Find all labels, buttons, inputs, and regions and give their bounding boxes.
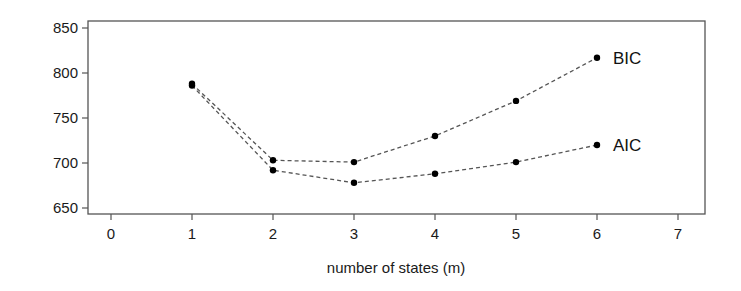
x-tick-label: 1 xyxy=(188,225,196,242)
series-label: BIC xyxy=(613,49,641,68)
data-point xyxy=(513,98,519,104)
x-tick-label: 0 xyxy=(107,225,115,242)
series-bic: BIC xyxy=(189,49,642,166)
series-aic: AIC xyxy=(189,82,642,186)
data-point xyxy=(594,142,600,148)
x-axis-title: number of states (m) xyxy=(327,259,465,276)
series-lines: BICAIC xyxy=(189,49,642,186)
x-tick-label: 2 xyxy=(269,225,277,242)
data-point xyxy=(432,133,438,139)
y-axis: 650700750800850 xyxy=(53,19,88,216)
data-point xyxy=(513,159,519,165)
data-point xyxy=(594,55,600,61)
y-tick-label: 850 xyxy=(53,19,78,36)
data-point xyxy=(189,82,195,88)
x-tick-label: 7 xyxy=(674,225,682,242)
series-line xyxy=(192,86,597,183)
series-label: AIC xyxy=(613,136,641,155)
x-tick-label: 3 xyxy=(350,225,358,242)
x-tick-label: 6 xyxy=(593,225,601,242)
data-point xyxy=(432,171,438,177)
aic-bic-chart: 650700750800850 01234567 BICAIC number o… xyxy=(0,0,741,291)
x-tick-label: 4 xyxy=(431,225,439,242)
data-point xyxy=(270,157,276,163)
data-point xyxy=(351,159,357,165)
x-tick-label: 5 xyxy=(512,225,520,242)
x-axis: 01234567 xyxy=(107,214,682,242)
series-line xyxy=(192,58,597,162)
data-point xyxy=(270,167,276,173)
y-tick-label: 700 xyxy=(53,154,78,171)
y-tick-label: 800 xyxy=(53,64,78,81)
data-point xyxy=(351,180,357,186)
y-tick-label: 650 xyxy=(53,199,78,216)
y-tick-label: 750 xyxy=(53,109,78,126)
